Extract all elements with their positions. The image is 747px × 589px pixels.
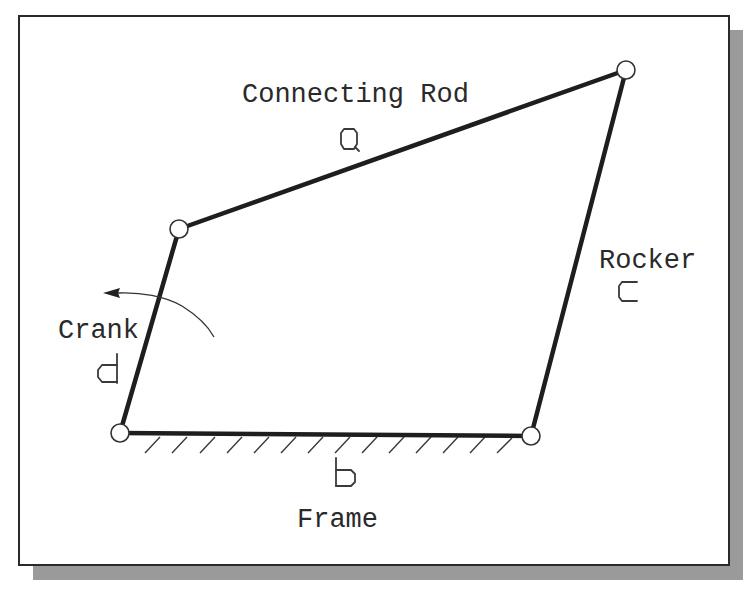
four-bar-linkage-diagram: Connecting Rod Rocker Crank Frame a b c … [0, 0, 747, 589]
joint-rod-rocker [617, 61, 635, 79]
joint-rocker-frame [522, 427, 540, 445]
label-frame: Frame [297, 505, 378, 535]
label-crank: Crank [58, 316, 139, 346]
label-rocker: Rocker [599, 246, 696, 276]
label-connecting-rod: Connecting Rod [242, 80, 469, 110]
joint-crank-rod [170, 220, 188, 238]
link-frame [120, 433, 531, 436]
joint-crank-frame [111, 424, 129, 442]
